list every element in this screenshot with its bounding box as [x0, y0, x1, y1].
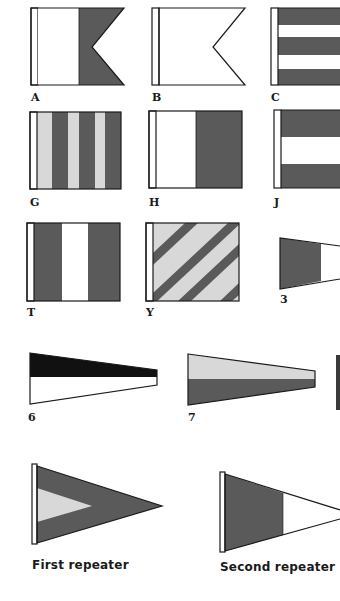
hoist-strip: [31, 8, 38, 85]
hoist-strip: [271, 8, 278, 85]
flag-label-j: J: [273, 196, 279, 209]
pennant-6-white-half: [30, 377, 157, 404]
flag-h: H: [149, 111, 242, 209]
second-repeater-dark-hoist: [225, 474, 283, 551]
pennant-label-7: 7: [188, 411, 196, 424]
hoist-strip: [32, 464, 37, 544]
cropped-flag-edge: [336, 355, 340, 410]
pennant-3: 3: [280, 238, 340, 306]
flag-label-t: T: [27, 306, 36, 319]
second-repeater: Second repeater: [220, 472, 340, 574]
pennant-7: 7: [188, 354, 315, 424]
flag-j: J: [273, 110, 340, 209]
hoist-strip: [146, 223, 153, 301]
flag-label-b: B: [152, 91, 161, 104]
pennant-6-black-half: [30, 353, 157, 377]
flag-label-g: G: [30, 196, 39, 209]
hoist-strip: [152, 8, 159, 85]
hoist-strip: [274, 110, 281, 188]
flag-label-h: H: [149, 196, 159, 209]
hoist-strip: [149, 111, 156, 188]
flag-t: T: [27, 223, 120, 319]
flag-g: G: [30, 112, 121, 209]
flag-a-dark-swallowtail: [79, 8, 124, 85]
first-repeater: First repeater: [32, 464, 162, 572]
second-repeater-white-fly: [283, 493, 340, 535]
flag-b-dark-swallowtail: [159, 8, 245, 85]
hoist-strip: [27, 223, 34, 301]
pennant-label-3: 3: [280, 293, 288, 306]
flag-a: A: [30, 8, 124, 104]
flag-label-c: C: [271, 91, 280, 104]
pennant-label-first-repeater: First repeater: [32, 558, 129, 572]
pennant-7-dark-half: [188, 379, 315, 405]
pennant-label-6: 6: [28, 411, 36, 424]
flag-b: B: [152, 8, 245, 104]
flag-c: C: [271, 8, 340, 104]
hoist-strip: [220, 472, 225, 552]
pennant-7-light-half: [188, 354, 315, 379]
flag-a-white-half: [38, 8, 79, 85]
flag-label-a: A: [30, 91, 40, 104]
flag-y: Y: [145, 223, 241, 319]
flag-label-y: Y: [145, 306, 154, 319]
pennant-6: 6: [28, 353, 157, 424]
pennant-label-second-repeater: Second repeater: [220, 560, 335, 574]
hoist-strip: [30, 112, 37, 189]
